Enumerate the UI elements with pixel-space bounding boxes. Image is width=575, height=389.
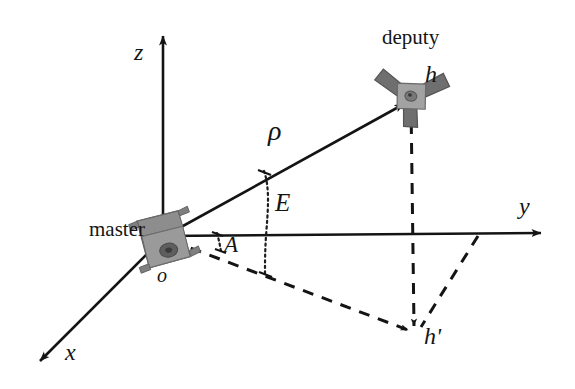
deputy-point-label: h [425,62,437,86]
deputy-satellite-icon [369,64,451,132]
yaxis-to-hprime-dashed [421,236,478,327]
axis-label-x: x [65,340,76,364]
axis-label-origin: o [157,265,167,285]
rho-line [163,104,404,237]
elevation-guide [258,170,272,277]
deputy-label: deputy [382,27,439,48]
figure-canvas: z y x o master deputy h ρ E A h' [0,0,575,389]
elevation-symbol-E: E [275,190,290,215]
axis-label-z: z [134,40,143,64]
master-label: master [89,219,145,240]
range-symbol-rho: ρ [268,117,281,145]
axis-x [40,238,163,361]
yaxis-tie-line [421,236,478,327]
axis-label-y: y [519,194,530,218]
elevation-dotted-arc [264,171,268,273]
vertical-drop-line [411,103,414,326]
axis-x-line [40,238,163,361]
ground-track-line [172,241,408,330]
projection-point-label: h' [424,324,441,348]
azimuth-symbol-A: A [224,233,238,256]
range-vector-rho [163,104,404,237]
h-to-hprime-dashed [411,103,414,326]
origin-to-hprime-dashed [172,241,408,330]
